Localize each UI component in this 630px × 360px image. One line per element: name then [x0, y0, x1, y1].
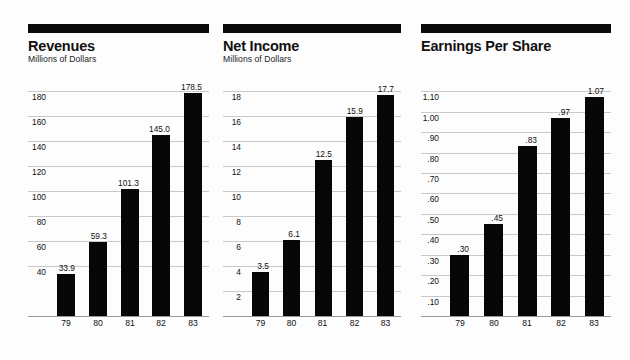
plot-area: 24681012141618 3.56.112.515.917.7 798081… — [223, 71, 401, 329]
x-axis-tick-label: 80 — [477, 318, 511, 329]
panel-subtitle: Millions of Dollars — [223, 54, 401, 65]
panel-title: Earnings Per Share — [421, 38, 611, 54]
panel-header-bar — [28, 24, 209, 33]
plot-area: 406080100120140160180 33.959.3101.3145.0… — [28, 71, 209, 329]
x-axis-tick-label: 82 — [339, 318, 370, 329]
x-axis-tick-label: 83 — [370, 318, 401, 329]
panel-title: Net Income — [223, 38, 401, 54]
chart-panel-earnings-per-share: Earnings Per Share .10.20.30.40.50.60.70… — [421, 24, 611, 342]
x-axis-tick-label: 81 — [307, 318, 338, 329]
financial-charts-page: Revenues Millions of Dollars 40608010012… — [0, 0, 630, 360]
axis-labels: 7980818283 — [28, 71, 209, 329]
x-axis-tick-label: 82 — [145, 318, 177, 329]
axis-labels: 7980818283 — [421, 71, 611, 329]
plot-area: .10.20.30.40.50.60.70.80.901.001.10 .30.… — [421, 71, 611, 329]
x-axis-tick-label: 83 — [177, 318, 209, 329]
panel-header-bar — [421, 24, 611, 33]
x-axis-tick-label: 79 — [245, 318, 276, 329]
chart-panel-revenues: Revenues Millions of Dollars 40608010012… — [28, 24, 209, 342]
axis-labels: 7980818283 — [223, 71, 401, 329]
x-axis-tick-label: 80 — [82, 318, 114, 329]
x-axis-tick-label: 79 — [50, 318, 82, 329]
x-axis-tick-label: 80 — [276, 318, 307, 329]
chart-panel-net-income: Net Income Millions of Dollars 246810121… — [223, 24, 401, 342]
x-axis-tick-label: 82 — [544, 318, 578, 329]
x-axis-tick-label: 81 — [114, 318, 146, 329]
x-axis-tick-label: 79 — [443, 318, 477, 329]
x-axis-tick-label: 83 — [577, 318, 611, 329]
panel-title: Revenues — [28, 38, 209, 54]
x-axis-tick-label: 81 — [510, 318, 544, 329]
panel-header-bar — [223, 24, 401, 33]
panel-subtitle: Millions of Dollars — [28, 54, 209, 65]
